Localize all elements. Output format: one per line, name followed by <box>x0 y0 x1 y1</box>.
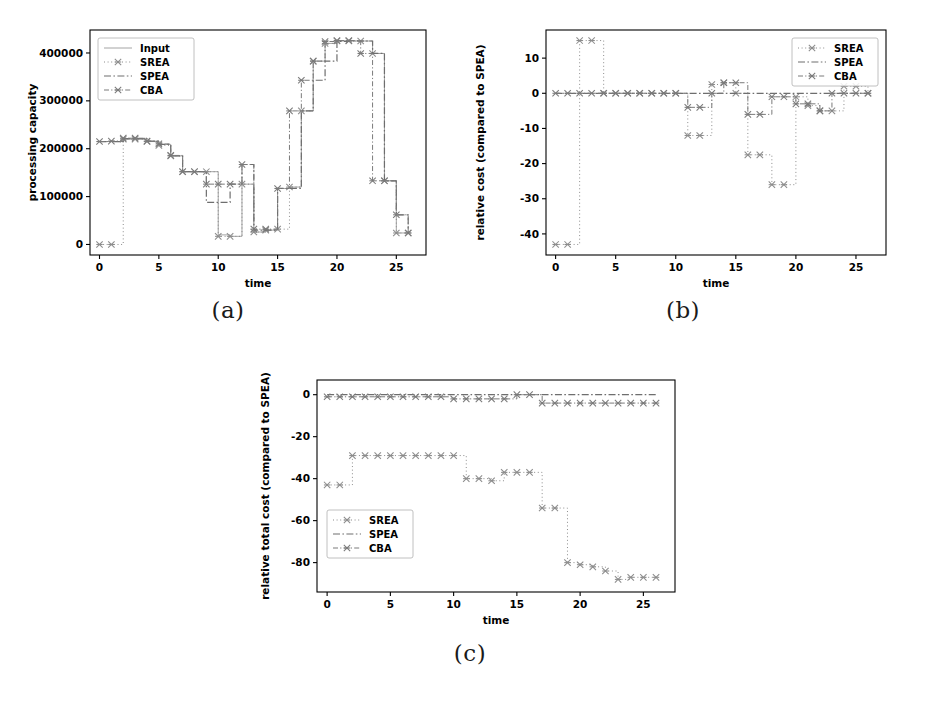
marker-x <box>615 576 621 582</box>
marker-x <box>96 138 102 144</box>
marker-x <box>697 104 703 110</box>
marker-x <box>733 80 739 86</box>
marker-x <box>552 505 558 511</box>
marker-x <box>781 181 787 187</box>
marker-x <box>590 564 596 570</box>
legend-label: CBA <box>369 543 392 554</box>
x-axis-title: time <box>245 277 272 289</box>
marker-x <box>362 452 368 458</box>
marker-x <box>577 400 583 406</box>
marker-x <box>375 452 381 458</box>
marker-x <box>757 152 763 158</box>
marker-x <box>387 452 393 458</box>
marker-x <box>476 396 482 402</box>
x-axis-title: time <box>703 277 730 289</box>
y-tick-label: -10 <box>520 122 539 134</box>
marker-x <box>227 181 233 187</box>
marker-x <box>337 394 343 400</box>
marker-x <box>552 90 558 96</box>
x-tick-label: 25 <box>849 261 864 273</box>
marker-x <box>324 482 330 488</box>
y-tick-label: -20 <box>291 430 310 442</box>
marker-x <box>781 94 787 100</box>
marker-x <box>588 90 594 96</box>
marker-x <box>539 505 545 511</box>
marker-x <box>602 568 608 574</box>
subplot-c-canvas: 05101520250-20-40-60-80timerelative tota… <box>255 368 685 640</box>
legend-label: SPEA <box>140 71 169 82</box>
marker-x <box>628 400 634 406</box>
marker-x <box>564 90 570 96</box>
y-tick-label: 0 <box>76 238 83 250</box>
marker-x <box>298 77 304 83</box>
figure-root: 05101520250100000200000300000400000timep… <box>0 0 940 701</box>
subplot-b-canvas: 0510152025100-10-20-30-40timerelative co… <box>468 18 898 303</box>
marker-x <box>640 574 646 580</box>
marker-x <box>349 452 355 458</box>
x-tick-label: 15 <box>510 598 525 610</box>
marker-x <box>400 452 406 458</box>
marker-x <box>438 452 444 458</box>
y-tick-label: -20 <box>520 157 539 169</box>
x-tick-label: 5 <box>387 598 394 610</box>
marker-x <box>526 391 532 397</box>
marker-x <box>577 562 583 568</box>
legend-label: SREA <box>834 43 864 54</box>
subplot-b-caption: (b) <box>468 297 898 323</box>
marker-x <box>501 396 507 402</box>
marker-x <box>526 469 532 475</box>
marker-x <box>400 394 406 400</box>
subplot-a: 05101520250100000200000300000400000timep… <box>18 18 438 303</box>
x-tick-label: 5 <box>155 261 162 273</box>
y-tick-label: 10 <box>524 52 539 64</box>
y-tick-label: 400000 <box>39 47 83 59</box>
marker-x <box>552 400 558 406</box>
marker-x <box>615 400 621 406</box>
x-tick-label: 10 <box>211 261 226 273</box>
marker-x <box>412 394 418 400</box>
legend-label: SREA <box>369 515 399 526</box>
marker-x <box>590 400 596 406</box>
marker-x <box>673 90 679 96</box>
x-tick-label: 15 <box>270 261 285 273</box>
marker-x <box>476 475 482 481</box>
marker-x <box>685 104 691 110</box>
subplot-a-caption: (a) <box>18 297 438 323</box>
marker-x <box>564 241 570 247</box>
marker-x <box>463 396 469 402</box>
marker-x <box>96 241 102 247</box>
marker-x <box>624 90 630 96</box>
legend-label: CBA <box>140 85 163 96</box>
marker-x <box>346 37 352 43</box>
marker-x <box>450 452 456 458</box>
marker-x <box>769 94 775 100</box>
legend-label: SREA <box>140 57 170 68</box>
marker-x <box>132 135 138 141</box>
y-axis-title: relative cost (compared to SPEA) <box>474 44 486 240</box>
marker-x <box>362 394 368 400</box>
subplot-a-canvas: 05101520250100000200000300000400000timep… <box>18 18 438 303</box>
marker-x <box>602 400 608 406</box>
plot-frame <box>317 380 675 592</box>
legend-label: SPEA <box>369 529 398 540</box>
x-axis-title: time <box>483 614 510 626</box>
legend-label: CBA <box>834 71 857 82</box>
marker-x <box>425 394 431 400</box>
x-tick-label: 10 <box>446 598 461 610</box>
marker-x <box>757 111 763 117</box>
x-tick-label: 15 <box>729 261 744 273</box>
marker-x <box>588 37 594 43</box>
marker-x <box>709 81 715 87</box>
marker-x <box>488 396 494 402</box>
marker-x <box>108 138 114 144</box>
y-tick-label: -40 <box>520 228 539 240</box>
legend-label: SPEA <box>834 57 863 68</box>
x-tick-label: 20 <box>330 261 345 273</box>
marker-x <box>337 482 343 488</box>
marker-x <box>745 152 751 158</box>
y-tick-label: 0 <box>532 87 539 99</box>
x-tick-label: 20 <box>573 598 588 610</box>
marker-x <box>564 559 570 565</box>
y-axis-title: processing capacity <box>26 84 38 202</box>
legend-label: Input <box>140 43 170 54</box>
